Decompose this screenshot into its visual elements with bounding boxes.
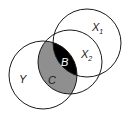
label-b: B [61,56,68,68]
label-c: C [48,74,56,86]
label-y: Y [19,73,27,85]
label-x2: X2 [80,48,92,62]
label-x1: X1 [91,21,103,35]
venn-diagram: X1 X2 Y B C [0,0,127,117]
